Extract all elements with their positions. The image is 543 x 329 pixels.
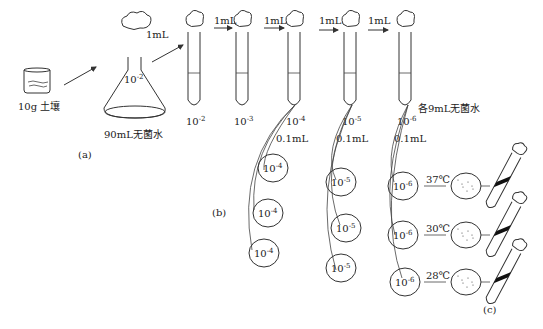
part-a-label: (a): [78, 149, 92, 160]
flask-water-label: 90mL无菌水: [104, 129, 163, 140]
petri-plate: 10-4: [249, 239, 279, 267]
incubation-step: 37℃: [424, 140, 528, 210]
petri-plate: 10-5: [326, 254, 356, 282]
petri-plate: 10-4: [253, 199, 283, 227]
serial-dilution-diagram: 10g 土壤 10-2 90mL无菌水 (a) 1mL 10-210-310-4…: [0, 0, 543, 329]
svg-text:10-4: 10-4: [254, 247, 274, 259]
petri-plate: 10-4: [258, 154, 288, 182]
test-tube: 10-2: [186, 10, 206, 127]
svg-text:10-4: 10-4: [263, 162, 283, 174]
part-c-label: (c): [483, 304, 497, 315]
tube-dilution-label: 10-3: [234, 115, 254, 127]
arrow-icon: [152, 45, 183, 62]
part-b-label: (b): [212, 207, 226, 218]
transfer-label: 1mL: [319, 15, 342, 26]
incubation-rows: 37℃30℃28℃: [424, 140, 528, 306]
flask-dilution: 10-2: [124, 73, 144, 85]
test-tube: 10-3: [234, 10, 254, 127]
svg-text:10-5: 10-5: [336, 222, 356, 234]
temperature-label: 37℃: [426, 174, 450, 185]
transfer-label: 1mL: [264, 15, 287, 26]
flask: [104, 11, 165, 118]
transfer-label: 1mL: [368, 15, 391, 26]
transfer-label: 0.1mL: [276, 133, 308, 144]
petri-plate: 10-6: [390, 268, 420, 296]
svg-text:10-4: 10-4: [258, 207, 278, 219]
svg-text:10-5: 10-5: [331, 176, 351, 188]
svg-text:10-6: 10-6: [393, 180, 413, 192]
transfer-label: 1mL: [146, 29, 169, 40]
svg-text:10-5: 10-5: [331, 262, 351, 274]
soil-label: 10g 土壤: [18, 100, 60, 112]
temperature-label: 28℃: [426, 270, 450, 281]
each-tube-water-label: 各9mL无菌水: [418, 102, 481, 114]
arrow-icon: [64, 67, 96, 85]
temperature-label: 30℃: [426, 223, 450, 234]
incubation-step: 28℃: [424, 236, 528, 306]
svg-text:10-6: 10-6: [393, 229, 413, 241]
transfer-label: 0.1mL: [336, 133, 368, 144]
test-tube: 10-4: [286, 10, 306, 127]
svg-text:10-6: 10-6: [395, 276, 415, 288]
petri-plate: 10-6: [388, 221, 418, 249]
incubation-step: 30℃: [424, 189, 528, 259]
tube-dilution-label: 10-4: [286, 115, 306, 127]
petri-plate: 10-5: [326, 168, 356, 196]
tube-dilution-label: 10-2: [186, 115, 206, 127]
transfer-label: 1mL: [214, 15, 237, 26]
test-tube: 10-5: [342, 10, 362, 127]
petri-plate: 10-6: [388, 172, 418, 200]
soil-beaker: [24, 68, 50, 93]
petri-plate: 10-5: [331, 214, 361, 242]
